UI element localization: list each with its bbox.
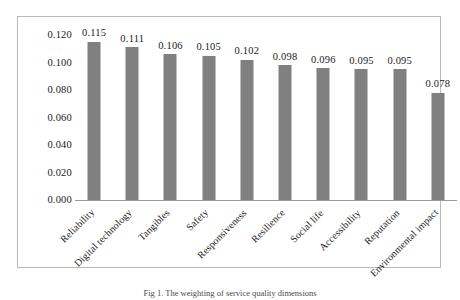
bar[interactable] <box>431 93 444 200</box>
figure-caption: Fig 1. The weighting of service quality … <box>0 288 460 298</box>
bar[interactable] <box>240 60 253 200</box>
bar-value-label: 0.096 <box>311 55 336 66</box>
chart-plot-area: 0.1150.1110.1060.1050.1020.0980.0960.095… <box>75 35 457 200</box>
figure-container: 0.0000.0200.0400.0600.0800.1000.120 0.11… <box>0 0 460 300</box>
bar-group: 0.102 <box>228 35 266 200</box>
bar[interactable] <box>393 69 406 200</box>
bar-value-label: 0.111 <box>120 34 144 45</box>
y-axis-tick-label: 0.000 <box>28 195 72 206</box>
bar[interactable] <box>202 56 215 200</box>
bar[interactable] <box>126 47 139 200</box>
x-axis-category-label: Safety <box>184 207 210 233</box>
bar-value-label: 0.078 <box>426 79 451 90</box>
x-axis-category-label: Environmental impact <box>368 207 440 279</box>
y-axis-tick-label: 0.100 <box>28 57 72 68</box>
bar-group: 0.106 <box>151 35 189 200</box>
x-axis-labels: ReliabilityDigital technologyTangiblesSa… <box>75 203 457 300</box>
y-axis-tick-label: 0.040 <box>28 140 72 151</box>
bar-group: 0.105 <box>190 35 228 200</box>
x-axis-category-label: Reputation <box>362 207 402 247</box>
bar-group: 0.095 <box>381 35 419 200</box>
y-axis-tick-label: 0.020 <box>28 167 72 178</box>
bar[interactable] <box>88 42 101 200</box>
bar-value-label: 0.115 <box>82 28 106 39</box>
y-axis-tick-label: 0.060 <box>28 112 72 123</box>
bar-group: 0.111 <box>113 35 151 200</box>
x-axis-category-label: Tangibles <box>136 207 172 243</box>
x-axis-category-label: Social life <box>288 207 325 244</box>
x-axis-category-label: Reliability <box>58 207 96 245</box>
bar-value-label: 0.102 <box>235 46 260 57</box>
y-axis-tick-label: 0.080 <box>28 85 72 96</box>
bar-value-label: 0.105 <box>196 42 221 53</box>
y-axis: 0.0000.0200.0400.0600.0800.1000.120 <box>24 35 72 200</box>
bar-value-label: 0.106 <box>158 41 183 52</box>
bar-group: 0.095 <box>342 35 380 200</box>
y-axis-tick-label: 0.120 <box>28 30 72 41</box>
bar[interactable] <box>355 69 368 200</box>
x-axis-baseline <box>75 200 457 201</box>
chart-plot-frame: 0.0000.0200.0400.0600.0800.1000.120 0.11… <box>17 16 441 268</box>
bar[interactable] <box>317 68 330 200</box>
bar-value-label: 0.095 <box>349 56 374 67</box>
bar-group: 0.098 <box>266 35 304 200</box>
x-axis-category-label: Resilience <box>249 207 287 245</box>
bar-value-label: 0.095 <box>387 56 412 67</box>
bar-group: 0.115 <box>75 35 113 200</box>
bar-value-label: 0.098 <box>273 52 298 63</box>
bar-group: 0.078 <box>419 35 457 200</box>
bar[interactable] <box>279 65 292 200</box>
bar-group: 0.096 <box>304 35 342 200</box>
bar[interactable] <box>164 54 177 200</box>
